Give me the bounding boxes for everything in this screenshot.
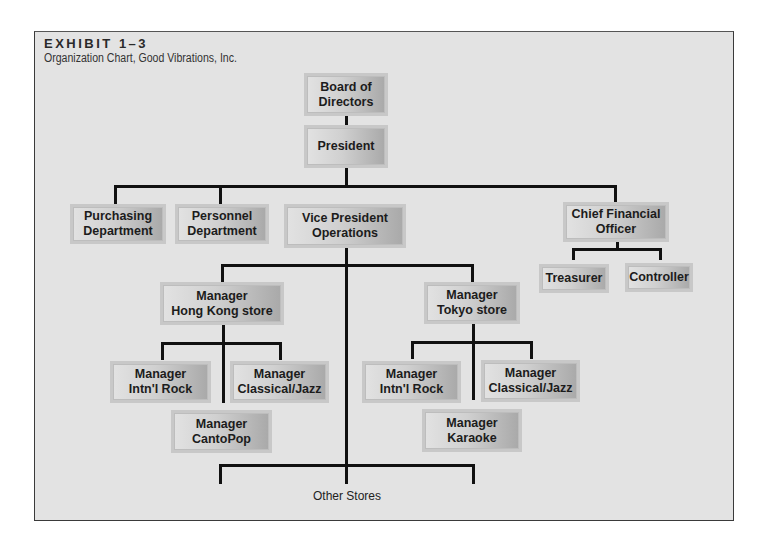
exhibit-label: EXHIBIT 1–3	[44, 36, 148, 51]
node-label: Manager Classical/Jazz	[237, 367, 321, 397]
node-board-of-directors: Board of Directors	[304, 73, 388, 116]
node-manager-hong-kong-store: Manager Hong Kong store	[160, 282, 284, 325]
connector-other-bar	[219, 464, 475, 467]
connector-hk	[221, 264, 224, 284]
connector-vp-trunk	[345, 246, 348, 484]
chart-subtitle: Organization Chart, Good Vibrations, Inc…	[44, 51, 237, 65]
connector-hk-bar	[161, 342, 282, 345]
node-cfo: Chief Financial Officer	[563, 202, 669, 242]
node-treasurer: Treasurer	[539, 264, 609, 293]
connector-other-left	[219, 464, 222, 484]
node-tokyo-manager-intl-rock: Manager Intn'l Rock	[362, 361, 461, 403]
node-hk-manager-intl-rock: Manager Intn'l Rock	[110, 361, 211, 403]
node-label: Manager Tokyo store	[437, 288, 507, 318]
connector-controller	[659, 248, 662, 260]
node-label: Board of Directors	[319, 80, 374, 110]
connector-hk-jazz	[279, 342, 282, 360]
node-label: Manager Intn'l Rock	[380, 367, 443, 397]
node-label: Purchasing Department	[83, 209, 152, 239]
node-tokyo-manager-karaoke: Manager Karaoke	[422, 409, 522, 452]
connector-tokyo-rock	[411, 341, 414, 359]
connector-cfo-bar	[572, 248, 661, 251]
node-label: Personnel Department	[187, 209, 256, 239]
node-controller: Controller	[625, 263, 693, 292]
connector-tokyo-bar	[411, 341, 533, 344]
node-label: Manager Karaoke	[446, 416, 497, 446]
connector-tokyo-jazz	[530, 341, 533, 359]
node-label: Treasurer	[546, 271, 603, 286]
connector-level2-bar	[114, 185, 617, 188]
node-purchasing-department: Purchasing Department	[70, 204, 166, 244]
connector-tokyo	[471, 264, 474, 284]
connector-treasurer	[572, 248, 575, 260]
node-tokyo-manager-classical-jazz: Manager Classical/Jazz	[481, 360, 580, 402]
connector-hk-rock	[161, 342, 164, 360]
node-personnel-department: Personnel Department	[175, 204, 269, 244]
connector-stores-bar	[221, 264, 474, 267]
other-stores-label: Other Stores	[313, 489, 381, 503]
node-label: Manager Classical/Jazz	[488, 366, 572, 396]
node-president: President	[304, 125, 388, 168]
connector-personnel	[219, 185, 222, 204]
node-label: Chief Financial Officer	[572, 207, 661, 237]
node-hk-manager-cantopop: Manager CantoPop	[171, 410, 272, 453]
connector-president-down	[345, 166, 348, 186]
connector-other-right	[472, 464, 475, 484]
connector-hk-down	[222, 324, 225, 403]
node-label: President	[318, 139, 375, 154]
node-label: Manager Hong Kong store	[171, 289, 272, 319]
node-label: Controller	[629, 270, 689, 285]
node-label: Manager Intn'l Rock	[129, 367, 192, 397]
node-hk-manager-classical-jazz: Manager Classical/Jazz	[230, 361, 329, 403]
node-manager-tokyo-store: Manager Tokyo store	[424, 282, 520, 324]
connector-tokyo-down	[472, 324, 475, 400]
node-label: Vice President Operations	[302, 211, 388, 241]
node-vp-operations: Vice President Operations	[284, 204, 406, 248]
connector-purchasing	[114, 185, 117, 204]
node-label: Manager CantoPop	[192, 417, 251, 447]
